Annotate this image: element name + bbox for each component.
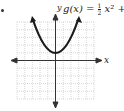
- x-axis-left-arrow-icon: [11, 58, 17, 63]
- y-axis-up-arrow-icon: [53, 14, 58, 20]
- fraction: 12: [98, 3, 102, 16]
- x-axis-right-arrow-icon: [96, 58, 102, 63]
- fraction-denominator: 2: [98, 10, 102, 16]
- y-axis-down-arrow-icon: [53, 102, 58, 108]
- x-axis-label: x: [104, 55, 109, 65]
- function-lhs: g(x) =: [63, 3, 98, 14]
- y-axis-label: y: [57, 3, 62, 12]
- function-rhs: x² + 1: [105, 3, 124, 14]
- function-label: g(x) = 12 x² + 1: [63, 3, 124, 16]
